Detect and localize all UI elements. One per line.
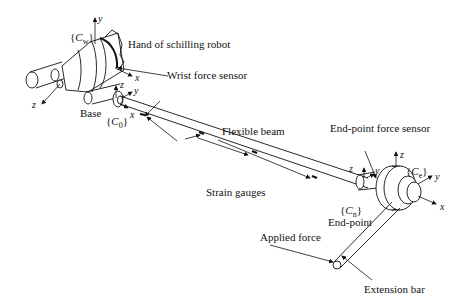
frame-endpoint-label: {Cn} <box>340 205 362 219</box>
sensor-y-axis-label: y <box>435 172 439 182</box>
sensor-z-axis-label: z <box>400 150 404 160</box>
frame-sensor-label: {Ce} <box>406 166 427 180</box>
end-z-axis-label: z <box>349 164 353 174</box>
wrist-y-axis-label: y <box>98 14 102 24</box>
wrist-sensor-label: Wrist force sensor <box>167 70 247 81</box>
endpoint-sensor-label: End-point force sensor <box>330 123 430 134</box>
base-label: Base <box>80 108 101 119</box>
base-y-axis-label: y <box>134 86 138 96</box>
frame-base-label: {C0} <box>106 116 128 130</box>
hand-label: Hand of schilling robot <box>128 39 230 50</box>
flexible-beam-label: Flexible beam <box>222 126 285 137</box>
end-y-axis-label: y <box>375 166 379 176</box>
wrist-x-axis-label: x <box>135 73 139 83</box>
base-z-axis-label: z <box>120 80 124 90</box>
applied-force-label: Applied force <box>260 232 321 243</box>
frame-wrist-label: {Cw} <box>70 32 94 46</box>
wrist-z-axis-label: z <box>32 100 36 110</box>
sensor-x-axis-label: x <box>440 202 444 212</box>
flexible-beam-diagram: Hand of schilling robot Wrist force sens… <box>0 0 467 308</box>
strain-gauges-label: Strain gauges <box>206 187 266 198</box>
diagram-drawing <box>0 0 467 308</box>
base-x-axis-label: x <box>130 110 134 120</box>
extension-bar-label: Extension bar <box>364 284 425 295</box>
